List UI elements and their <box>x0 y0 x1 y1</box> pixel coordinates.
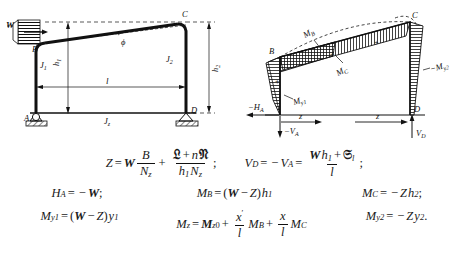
figure-page: W l <box>0 0 469 263</box>
svg-text:J2: J2 <box>166 54 173 65</box>
span-label: l <box>106 76 109 86</box>
formula-vd: VD = − VA = W h1+𝔖l l ; <box>223 148 465 179</box>
coordinate-z-right: z <box>355 111 408 124</box>
moment-joint-d: D <box>413 104 421 114</box>
beam-inertia-sub: z <box>107 121 111 127</box>
moment-joint-b: B <box>269 46 274 56</box>
moment-joint-c: C <box>412 10 418 20</box>
svg-text:VD: VD <box>416 128 426 139</box>
svg-text:h1: h1 <box>51 59 62 66</box>
formula-row-1: Z = W B Nz + 𝔏+n 𝔑 h1 Nz ; VD = − VA <box>0 148 469 179</box>
joint-label-d: D <box>190 105 198 115</box>
svg-text:My1: My1 <box>291 94 307 108</box>
formula-my2: My2 = − Z y2 . <box>326 209 468 224</box>
svg-text:MB: MB <box>300 26 316 41</box>
right-column-inertia-sub: 2 <box>170 59 173 65</box>
formula-z: Z = W B Nz + 𝔏+n 𝔑 h1 Nz ; <box>5 148 223 179</box>
moment-diagram: + + + − MB MC My1 <box>235 0 469 140</box>
formula-ha: HA = − W ; <box>2 186 152 201</box>
svg-text:z: z <box>298 111 303 121</box>
svg-text:−HA: −HA <box>248 102 264 113</box>
distributed-load-block <box>13 20 48 44</box>
joint-label-a: A <box>23 113 30 123</box>
formula-row-3: My1 = ( W − Z ) y1 Mz = Mz0 + x′ l MB + <box>0 209 469 240</box>
sign-positive-3: + <box>374 38 379 47</box>
formula-mc: MC = − Z h2 ; <box>317 186 467 201</box>
svg-text:h2: h2 <box>210 65 221 72</box>
sign-positive-1: + <box>275 77 280 86</box>
h2-sub: 2 <box>215 65 221 68</box>
left-column-inertia-sub: 1 <box>44 65 47 71</box>
formula-mb: MB = ( W − Z ) h1 <box>152 186 317 201</box>
svg-text:z: z <box>375 111 380 121</box>
svg-text:−VA: −VA <box>284 126 299 137</box>
joint-label-b: B <box>32 44 37 54</box>
reaction-horizontal-ha: −HA <box>246 102 279 117</box>
formula-mz: Mz = Mz0 + x′ l MB + x l MC <box>158 209 326 240</box>
formula-row-2: HA = − W ; MB = ( W − Z ) h1 MC = − Z h2… <box>0 186 469 201</box>
coordinate-z-left: z <box>281 111 322 124</box>
label-m-y1: My1 <box>284 94 307 108</box>
label-m-y2: −My2 <box>423 59 450 75</box>
frame-structural-diagram: W l <box>0 0 235 140</box>
svg-text:−My2: −My2 <box>429 59 450 75</box>
label-m-b: MB <box>300 26 321 49</box>
dimension-span-l: l <box>36 76 186 89</box>
dimension-h1: h1 <box>51 22 70 114</box>
svg-text:Jz: Jz <box>104 116 111 127</box>
sign-negative-1: − <box>415 39 420 48</box>
label-m-c: MC <box>333 56 350 79</box>
formula-my1: My1 = ( W − Z ) y1 <box>2 209 158 224</box>
svg-text:J1: J1 <box>40 60 47 71</box>
formula-block: Z = W B Nz + 𝔏+n 𝔑 h1 Nz ; VD = − VA <box>0 143 469 263</box>
dimension-h2: h2 <box>207 22 221 113</box>
h1-sub: 1 <box>56 59 62 62</box>
svg-text:MC: MC <box>333 63 350 79</box>
load-label-W: W <box>6 20 15 30</box>
joint-label-c: C <box>182 9 188 19</box>
sign-positive-2: + <box>330 50 335 59</box>
reaction-vertical-va: −VA <box>278 116 299 138</box>
beam-angle-label: ϕ <box>121 37 126 47</box>
reaction-vertical-vd: VD <box>410 114 427 139</box>
